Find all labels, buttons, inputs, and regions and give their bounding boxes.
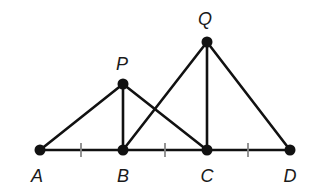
segment-ap bbox=[40, 84, 123, 150]
point-a bbox=[35, 145, 46, 156]
point-p bbox=[118, 79, 129, 90]
segment-qd bbox=[207, 42, 290, 150]
point-c bbox=[202, 145, 213, 156]
label-b: B bbox=[117, 166, 129, 186]
label-c: C bbox=[201, 166, 215, 186]
label-d: D bbox=[284, 166, 297, 186]
segment-bq bbox=[123, 42, 207, 150]
segments bbox=[40, 42, 290, 150]
label-p: P bbox=[116, 54, 128, 74]
label-q: Q bbox=[198, 9, 212, 29]
label-a: A bbox=[30, 166, 43, 186]
point-d bbox=[285, 145, 296, 156]
point-b bbox=[118, 145, 129, 156]
point-q bbox=[202, 37, 213, 48]
geometry-diagram: ABCDPQ bbox=[0, 0, 316, 193]
